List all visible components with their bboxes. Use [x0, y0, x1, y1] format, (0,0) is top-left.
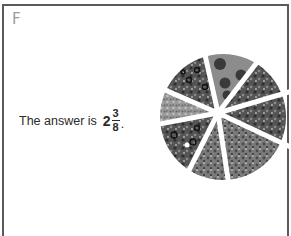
fraction: 3 8: [112, 108, 120, 133]
panel-label: F: [12, 12, 21, 27]
answer-prefix: The answer is: [19, 114, 97, 128]
answer-text: The answer is 2 3 8 .: [19, 108, 124, 133]
pizza-slices-icon: [157, 50, 291, 184]
fraction-numerator: 3: [112, 108, 120, 121]
mixed-number-whole: 2: [103, 113, 111, 129]
fraction-denominator: 8: [113, 121, 119, 133]
pizza-svg: [157, 50, 291, 184]
answer-period: .: [121, 117, 124, 131]
